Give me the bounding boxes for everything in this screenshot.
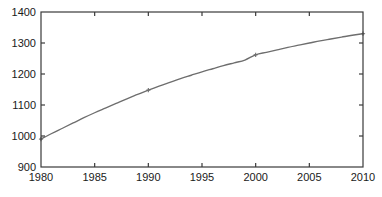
line-chart: 90010001100120013001400 1980198519901995… (0, 0, 382, 197)
x-axis-tick-label: 1995 (190, 171, 214, 183)
x-axis-tick-label: 1990 (136, 171, 160, 183)
x-axis-tick-label: 1980 (29, 171, 53, 183)
x-axis-tick-label: 1985 (82, 171, 106, 183)
plot-background (41, 12, 363, 167)
y-axis-tick-label: 1000 (12, 130, 36, 142)
x-axis-tick-label: 2005 (297, 171, 321, 183)
y-axis-tick-label: 1100 (12, 99, 36, 111)
chart-figure: 90010001100120013001400 1980198519901995… (0, 0, 382, 197)
y-axis-tick-label: 1400 (12, 6, 36, 18)
x-axis-tick-label: 2000 (243, 171, 267, 183)
x-axis-tick-labels: 1980198519901995200020052010 (29, 171, 375, 183)
y-axis-tick-labels: 90010001100120013001400 (12, 6, 36, 173)
y-axis-tick-label: 1200 (12, 68, 36, 80)
y-axis-tick-label: 1300 (12, 37, 36, 49)
x-axis-tick-label: 2010 (351, 171, 375, 183)
